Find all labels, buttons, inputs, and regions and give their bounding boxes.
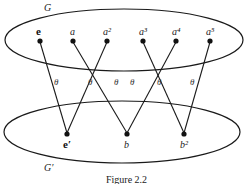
- mapping-edges: [40, 42, 210, 133]
- theta-label-4: θ: [130, 77, 135, 87]
- node-a: [70, 38, 75, 43]
- label-eprime: e′: [63, 138, 71, 150]
- set-g-label: G: [44, 2, 51, 13]
- theta-label-5: θ: [157, 77, 162, 87]
- label-b2: b²: [180, 139, 189, 150]
- figure-caption: Figure 2.2: [106, 174, 147, 184]
- label-a5: a⁵: [206, 26, 215, 37]
- edge-a5-b2: [184, 42, 210, 133]
- bottom-nodes: [64, 131, 186, 136]
- theta-label-3: θ: [114, 77, 119, 87]
- node-b2: [181, 131, 186, 136]
- node-eprime: [64, 131, 69, 136]
- theta-label-2: θ: [88, 77, 93, 87]
- label-a2: a²: [103, 26, 112, 37]
- theta-label-1: θ: [54, 77, 59, 87]
- edge-a2-eprime: [67, 42, 107, 133]
- edge-a4-b: [127, 42, 176, 133]
- label-b: b: [124, 139, 129, 150]
- set-g-prime-label: G′: [44, 162, 54, 173]
- edge-a3-b2: [143, 42, 184, 133]
- node-a5: [207, 38, 212, 43]
- homomorphism-diagram: G G′ e a a² a³ a⁴ a⁵ e′ b b² θ θ θ θ θ θ…: [0, 0, 251, 184]
- edge-a-b: [73, 42, 127, 133]
- edge-e-eprime: [40, 42, 67, 133]
- theta-label-6: θ: [190, 77, 195, 87]
- set-g-prime-ellipse: [4, 101, 240, 163]
- label-a3: a³: [139, 26, 148, 37]
- node-e: [37, 38, 42, 43]
- label-a: a: [70, 26, 75, 37]
- top-nodes: [37, 38, 212, 43]
- label-a4: a⁴: [172, 26, 181, 37]
- label-e: e: [36, 25, 41, 37]
- node-b: [124, 131, 129, 136]
- node-a2: [104, 38, 109, 43]
- node-a4: [173, 38, 178, 43]
- node-a3: [140, 38, 145, 43]
